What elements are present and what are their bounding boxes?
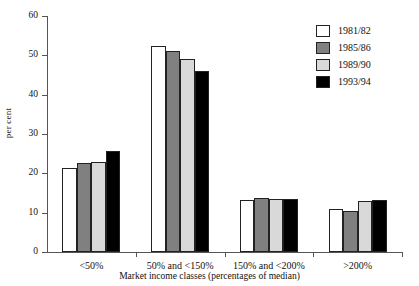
x-tick bbox=[313, 252, 314, 257]
legend-item[interactable]: 1985/86 bbox=[316, 39, 416, 56]
legend-swatch-icon bbox=[316, 76, 330, 88]
y-tick-label: 40 bbox=[29, 88, 39, 101]
y-tick-label: 60 bbox=[29, 9, 39, 22]
clipped-title-remnant bbox=[150, 0, 419, 1]
y-tick-label: 20 bbox=[29, 166, 39, 179]
bar bbox=[195, 71, 210, 252]
y-tick-30: 30 bbox=[42, 134, 47, 135]
bar bbox=[269, 199, 284, 252]
x-tick bbox=[402, 252, 403, 257]
bar bbox=[151, 46, 166, 253]
legend-label: 1985/86 bbox=[338, 42, 371, 53]
bar bbox=[180, 59, 195, 252]
bar-group bbox=[151, 16, 209, 252]
bar bbox=[166, 51, 181, 252]
bar bbox=[254, 198, 269, 252]
bar bbox=[77, 163, 92, 252]
legend-label: 1981/82 bbox=[338, 25, 371, 36]
x-tick bbox=[225, 252, 226, 257]
bar bbox=[358, 201, 373, 252]
y-tick-60: 60 bbox=[42, 16, 47, 17]
y-tick-label: 30 bbox=[29, 127, 39, 140]
bar-chart-figure: per cent 0102030405060 <50%50% and <150%… bbox=[0, 0, 419, 286]
bar bbox=[106, 151, 121, 252]
bar-group bbox=[62, 16, 120, 252]
legend-item[interactable]: 1993/94 bbox=[316, 73, 416, 90]
bar bbox=[343, 211, 358, 252]
chart-legend: 1981/821985/861989/901993/94 bbox=[316, 22, 416, 90]
bar bbox=[62, 168, 77, 252]
legend-label: 1993/94 bbox=[338, 76, 371, 87]
y-tick-label: 50 bbox=[29, 48, 39, 61]
bar bbox=[240, 200, 255, 252]
x-tick bbox=[136, 252, 137, 257]
y-tick-40: 40 bbox=[42, 95, 47, 96]
bar bbox=[283, 199, 298, 252]
y-tick-0: 0 bbox=[42, 252, 47, 253]
x-axis-label: Market income classes (percentages of me… bbox=[0, 271, 419, 281]
legend-swatch-icon bbox=[316, 59, 330, 71]
y-axis-line bbox=[47, 16, 48, 253]
y-tick-50: 50 bbox=[42, 55, 47, 56]
legend-label: 1989/90 bbox=[338, 59, 371, 70]
x-category-label: >200% bbox=[288, 260, 419, 271]
bar-group bbox=[240, 16, 298, 252]
y-tick-label: 0 bbox=[33, 245, 38, 258]
y-tick-10: 10 bbox=[42, 213, 47, 214]
legend-item[interactable]: 1981/82 bbox=[316, 22, 416, 39]
legend-swatch-icon bbox=[316, 42, 330, 54]
bar bbox=[329, 209, 344, 252]
legend-item[interactable]: 1989/90 bbox=[316, 56, 416, 73]
bar bbox=[372, 200, 387, 252]
legend-swatch-icon bbox=[316, 25, 330, 37]
y-axis-label: per cent bbox=[3, 93, 13, 153]
bar bbox=[91, 162, 106, 252]
y-tick-20: 20 bbox=[42, 173, 47, 174]
y-tick-label: 10 bbox=[29, 206, 39, 219]
